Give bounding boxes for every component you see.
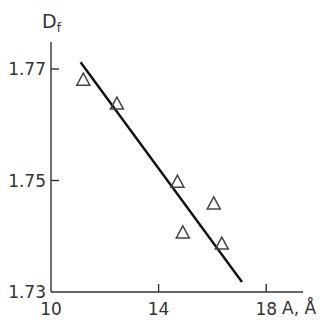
- x-tick-label: 14: [148, 299, 170, 319]
- y-axis-label: Df: [42, 10, 62, 35]
- axes: [51, 42, 303, 292]
- scatter-chart: 1014181.731.751.77 Df A, Å: [0, 0, 328, 335]
- triangle-marker: [77, 73, 90, 85]
- triangle-marker: [171, 175, 184, 187]
- x-axis-label: A, Å: [282, 297, 316, 318]
- x-tick-label: 10: [40, 299, 62, 319]
- y-tick-label: 1.77: [8, 59, 46, 79]
- y-tick-label: 1.75: [8, 171, 46, 191]
- triangle-marker: [176, 226, 189, 238]
- y-tick-label: 1.73: [8, 282, 46, 302]
- triangle-marker: [207, 197, 220, 209]
- x-tick-label: 18: [255, 299, 277, 319]
